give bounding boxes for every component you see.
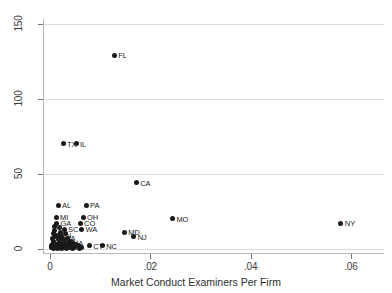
x-tick-mark [150,254,151,259]
data-point-label: NY [345,219,355,228]
data-point [77,246,82,251]
data-point-label: AL [62,201,71,210]
y-tick-mark [38,24,43,25]
x-axis-line [43,253,384,254]
data-point [61,141,66,146]
data-point-label: CA [140,178,150,187]
y-tick-label: 100 [13,85,24,111]
x-tick-mark [351,254,352,259]
data-point [64,246,69,251]
gridline-y [44,24,384,25]
data-point-label: PA [90,201,99,210]
y-tick-label: 150 [13,10,24,36]
data-point-label: WA [86,225,98,234]
y-tick-label: 50 [13,160,24,186]
x-tick-label: .06 [331,261,371,272]
scatter-plot-figure: FLTXILCAALPAMIOHMOGACOSCWAMDNJINVAMACTNC… [0,0,392,293]
data-point [84,203,89,208]
data-point [134,180,139,185]
data-point [100,243,105,248]
data-point [131,234,136,239]
y-tick-mark [38,249,43,250]
x-axis-title: Market Conduct Examiners Per Firm [0,276,392,288]
data-point-label: NC [106,241,117,250]
data-point [54,215,59,220]
y-tick-mark [38,174,43,175]
data-point [78,221,83,226]
data-point [74,141,79,146]
y-tick-mark [38,99,43,100]
data-point-label: MO [176,214,188,223]
x-tick-label: .04 [231,261,271,272]
data-point-label: IL [80,139,86,148]
data-point [56,203,61,208]
data-point [338,221,343,226]
data-point [70,246,75,251]
data-point [112,53,117,58]
data-point-label: NJ [138,232,147,241]
y-tick-label: 0 [13,235,24,261]
x-tick-mark [251,254,252,259]
data-point-label: FL [118,51,127,60]
gridline-y [44,99,384,100]
x-tick-label: .02 [130,261,170,272]
data-point [122,230,127,235]
data-point [170,216,175,221]
data-point [79,227,84,232]
gridline-y [44,174,384,175]
data-point [87,243,92,248]
plot-area: FLTXILCAALPAMIOHMOGACOSCWAMDNJINVAMACTNC… [44,19,384,253]
x-tick-mark [50,254,51,259]
x-tick-label: 0 [30,261,70,272]
